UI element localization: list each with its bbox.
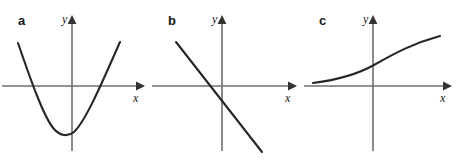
panel-label-c: c [319, 14, 326, 27]
panel-label-b: b [168, 14, 176, 27]
y-axis-label-b: y [212, 13, 217, 25]
parabola-curve [18, 42, 120, 135]
panel-b: b y x [150, 0, 302, 163]
x-axis-label-a: x [133, 92, 138, 104]
x-axis-label-c: x [440, 92, 445, 104]
x-axis-arrowhead-b [288, 82, 297, 91]
y-axis-arrowhead-c [369, 15, 378, 24]
figure-three-graph-panels: a y x b y x c y [0, 0, 458, 163]
x-axis-arrowhead-a [136, 82, 145, 91]
panel-a: a y x [0, 0, 150, 163]
y-axis-arrowhead-b [218, 15, 227, 24]
negative-slope-line [176, 42, 262, 152]
y-axis-arrowhead-a [68, 15, 77, 24]
y-axis-label-c: y [363, 13, 368, 25]
panel-c: c y x [302, 0, 458, 163]
exponential-curve [313, 36, 440, 83]
y-axis-label-a: y [62, 13, 67, 25]
x-axis-arrowhead-c [443, 82, 452, 91]
panel-label-a: a [18, 14, 25, 27]
x-axis-label-b: x [285, 92, 290, 104]
